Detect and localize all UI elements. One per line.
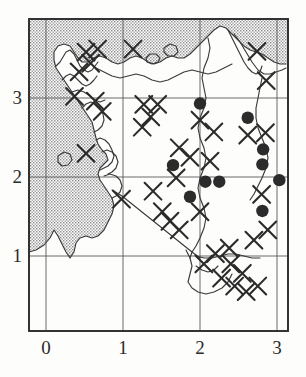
map-canvas xyxy=(0,0,306,377)
sea-stipple-region xyxy=(29,19,288,331)
filled-circle-symbol xyxy=(256,205,268,217)
x-tick-label-0: 0 xyxy=(36,338,56,357)
filled-circle-symbol xyxy=(199,176,211,188)
filled-circle-symbol xyxy=(242,112,254,124)
filled-circle-symbol xyxy=(167,159,179,171)
y-tick-label-1: 1 xyxy=(2,246,22,265)
filled-circle-symbol xyxy=(257,143,269,155)
filled-circle-symbol xyxy=(256,158,268,170)
x-tick-label-1: 1 xyxy=(113,338,133,357)
y-tick-label-3: 3 xyxy=(2,88,22,107)
filled-circle-symbol xyxy=(213,176,225,188)
x-tick-label-2: 2 xyxy=(190,338,210,357)
filled-circle-symbol xyxy=(184,191,196,203)
distribution-map-figure: 0 1 2 3 3 2 1 xyxy=(0,0,306,377)
filled-circle-symbol xyxy=(273,174,285,186)
y-tick-label-2: 2 xyxy=(2,167,22,186)
filled-circle-symbol xyxy=(194,97,206,109)
x-tick-label-3: 3 xyxy=(267,338,287,357)
